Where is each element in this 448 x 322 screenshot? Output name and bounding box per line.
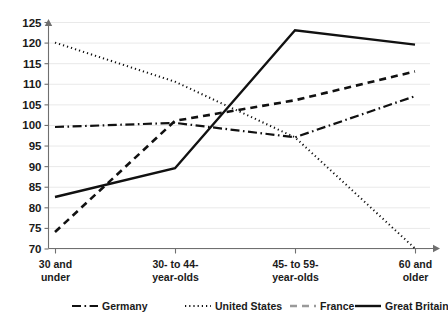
y-tick-label: 110 [23,78,42,90]
series-line-germany [55,96,415,137]
legend-label-germany: Germany [102,300,148,312]
series-line-great-britain [55,30,415,197]
x-axis [45,19,440,254]
y-tick-labels: 707580859095100105110115120125 [22,17,42,256]
y-axis [45,22,49,249]
x-tick-label: 30 andunder [39,258,72,283]
chart-canvas: 707580859095100105110115120125 30 andund… [0,0,448,322]
y-tick-label: 125 [22,17,42,29]
y-tick-label: 100 [22,119,41,131]
y-tick-label: 70 [29,243,42,255]
data-series [55,30,415,248]
y-tick-label: 85 [29,181,42,193]
chart-legend: GermanyUnited StatesFranceGreat Britain [72,300,448,312]
y-tick-marks [45,23,49,250]
x-tick-label: 30- to 44-year-olds [152,258,199,283]
legend-label-france: France [320,300,355,312]
x-axis-arrow-icon [433,245,440,252]
line-chart: 707580859095100105110115120125 30 andund… [0,0,448,322]
x-tick-label: 45- to 59-year-olds [272,258,319,283]
x-tick-label: 60 andolder [399,258,432,283]
gridlines [49,23,431,250]
y-tick-label: 90 [29,161,42,173]
y-tick-label: 115 [23,58,42,70]
legend-label-united-states: United States [215,300,282,312]
y-tick-label: 105 [22,99,42,111]
x-tick-labels: 30 andunder30- to 44-year-olds45- to 59-… [39,258,432,283]
y-tick-label: 80 [29,202,42,214]
y-tick-label: 120 [22,37,41,49]
y-tick-label: 95 [29,140,42,152]
y-tick-label: 75 [29,222,42,234]
legend-label-great-britain: Great Britain [385,300,448,312]
